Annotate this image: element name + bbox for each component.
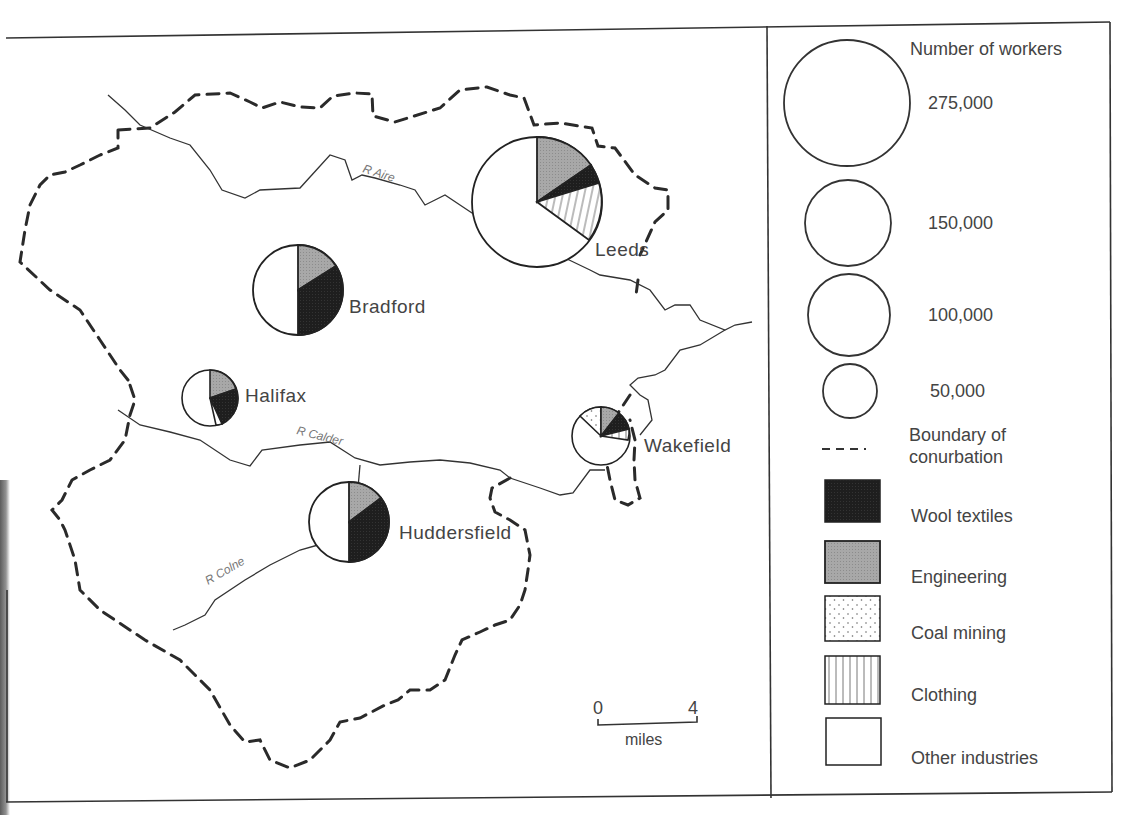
legend-circle-150000	[805, 180, 891, 266]
svg-text:Wool textiles: Wool textiles	[911, 506, 1013, 526]
city-label-wakefield: Wakefield	[644, 435, 731, 456]
river-calder-lower	[630, 330, 725, 435]
legend-circle-275000	[784, 40, 910, 166]
city-label-bradford: Bradford	[349, 296, 426, 317]
svg-text:0: 0	[593, 698, 603, 718]
svg-text:100,000: 100,000	[928, 305, 993, 325]
svg-text:150,000: 150,000	[928, 213, 993, 233]
rivers	[108, 95, 752, 630]
scale-bar: 0 4 miles	[593, 698, 698, 748]
pie-bradford	[253, 245, 343, 335]
legend-circle-100000	[808, 274, 890, 356]
city-label-halifax: Halifax	[245, 385, 307, 406]
legend-swatch-engineering	[825, 541, 880, 583]
legend-swatch-other	[826, 718, 881, 765]
city-label-huddersfield: Huddersfield	[399, 522, 512, 543]
pie-huddersfield	[309, 482, 389, 562]
conurbation-map: R Aire R Calder R Colne Leeds Bradford H…	[0, 0, 1131, 815]
svg-text:Clothing: Clothing	[911, 685, 977, 705]
legend-swatch-clothing	[825, 656, 880, 704]
city-label-leeds: Leeds	[595, 239, 649, 260]
svg-text:miles: miles	[625, 731, 662, 748]
svg-text:4: 4	[688, 698, 698, 718]
svg-text:Boundary of: Boundary of	[909, 425, 1007, 445]
river-calder	[118, 410, 605, 495]
legend-size-title: Number of workers	[910, 39, 1062, 59]
svg-text:conurbation: conurbation	[909, 447, 1003, 467]
legend-circle-50000	[823, 364, 877, 418]
svg-text:50,000: 50,000	[930, 381, 985, 401]
river-aire-east	[565, 258, 752, 330]
svg-text:Other industries: Other industries	[911, 748, 1038, 768]
river-colne	[173, 545, 318, 630]
pie-leeds	[472, 137, 602, 267]
river-label-aire: R Aire	[361, 162, 397, 186]
legend-swatch-wool	[825, 480, 880, 522]
legend: Number of workers 275,000 150,000 100,00…	[784, 39, 1062, 768]
pie-halifax	[182, 370, 238, 426]
svg-text:275,000: 275,000	[928, 93, 993, 113]
svg-text:Coal mining: Coal mining	[911, 623, 1006, 643]
svg-text:Engineering: Engineering	[911, 567, 1007, 587]
legend-swatch-coal	[825, 596, 880, 641]
pie-wakefield	[572, 407, 630, 465]
